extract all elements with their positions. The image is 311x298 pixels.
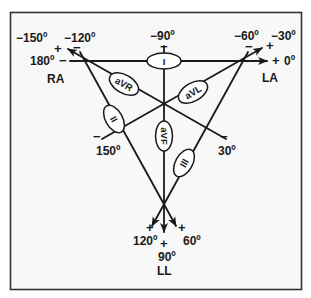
electrode-ra: RA — [47, 72, 65, 86]
svg-text:aVF: aVF — [159, 127, 170, 145]
polarity-minus-iii: − — [245, 39, 253, 54]
polarity-minus-i: − — [59, 53, 67, 68]
polarity-minus-avf: − — [160, 39, 168, 54]
polarity-plus-ii: + — [178, 220, 186, 235]
polarity-plus-avf: + — [160, 236, 168, 251]
lead-i-label: I — [147, 53, 181, 69]
polarity-minus-avr: − — [220, 129, 228, 144]
angle-60: 60º — [183, 234, 201, 248]
polarity-minus-ii: − — [73, 40, 81, 55]
avf-label: aVF — [156, 121, 173, 151]
angle-90: 90º — [158, 250, 176, 264]
angle-120: 120º — [133, 234, 158, 248]
angle-150: 150º — [96, 144, 121, 158]
polarity-plus-iii: + — [146, 220, 154, 235]
electrode-ll: LL — [157, 264, 172, 278]
angle-180: 180º — [30, 54, 55, 68]
electrode-la: LA — [262, 71, 278, 85]
angle-0: 0º — [284, 54, 296, 68]
polarity-plus-avl: + — [266, 38, 274, 53]
angle-neg30: −30º — [271, 29, 296, 43]
polarity-plus-i: + — [272, 53, 280, 68]
hexaxial-diagram: I aVR aVL II aVF III −150º −120º + − 180… — [0, 0, 311, 298]
svg-text:I: I — [163, 56, 166, 67]
angle-30: 30º — [218, 144, 236, 158]
angle-neg150: −150º — [16, 31, 48, 45]
polarity-minus-avl: − — [93, 129, 101, 144]
